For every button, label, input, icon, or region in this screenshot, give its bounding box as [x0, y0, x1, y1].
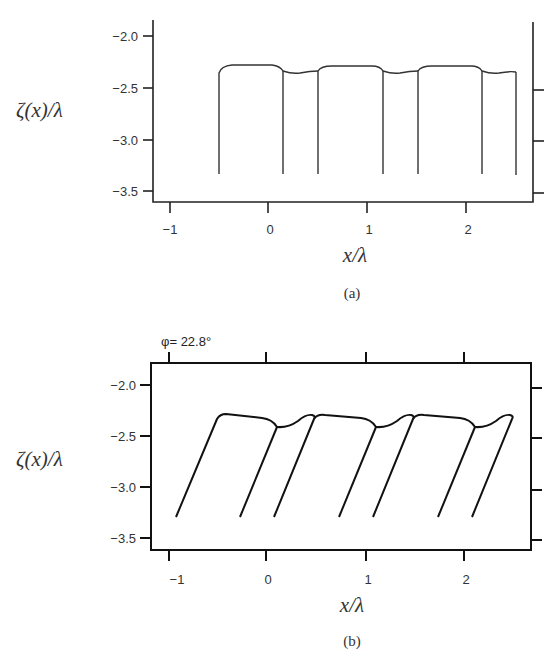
- panel-b-axes: [151, 363, 531, 550]
- panel-a-ytick-label: −3.5: [112, 184, 138, 199]
- panel-b-y-ticks: [140, 385, 151, 538]
- panel-b-x-axis-title: x/λ: [339, 593, 364, 617]
- panel-a-ytick-label: −2.0: [112, 29, 138, 44]
- panel-b-y-axis-title: ζ(x)/λ: [16, 447, 63, 471]
- panel-b-top-ticks: [169, 352, 464, 363]
- panel-b-ytick-label: −2.0: [110, 378, 136, 393]
- panel-a-right-ticks: [533, 90, 544, 193]
- panel-b-profile: [176, 414, 513, 517]
- panel-a-xtick-label: 2: [464, 222, 471, 237]
- panel-b-ytick-label: −3.5: [110, 531, 136, 546]
- panel-a-x-ticks: [170, 202, 466, 213]
- panel-b-xtick-label: 0: [264, 572, 271, 587]
- panel-a-xtick-label: 1: [365, 222, 372, 237]
- panel-a-x-axis-title: x/λ: [342, 243, 367, 267]
- panel-b-angle-annotation: φ= 22.8°: [161, 334, 211, 349]
- panel-a-profile: [219, 65, 516, 175]
- panel-a-caption: (a): [344, 285, 361, 302]
- panel-a: −2.0 −2.5 −3.0 −3.5 −1 0 1 2 ζ(x)/λ x/λ …: [16, 20, 544, 302]
- panel-b: φ= 22.8°: [16, 334, 542, 650]
- panel-b-xtick-label: −1: [170, 572, 185, 587]
- panel-a-xtick-label: −1: [163, 222, 178, 237]
- panel-b-xtick-label: 2: [462, 572, 469, 587]
- panel-a-y-axis-title: ζ(x)/λ: [16, 98, 63, 122]
- panel-a-xtick-label: 0: [266, 222, 273, 237]
- panel-a-axes: [153, 20, 533, 202]
- panel-b-right-ticks: [531, 388, 542, 540]
- panel-a-ytick-label: −3.0: [112, 133, 138, 148]
- panel-b-ytick-label: −3.0: [110, 480, 136, 495]
- panel-b-caption: (b): [343, 633, 361, 650]
- panel-a-ytick-label: −2.5: [112, 81, 138, 96]
- panel-a-y-ticks: [143, 36, 153, 191]
- panel-b-xtick-label: 1: [364, 572, 371, 587]
- panel-b-x-ticks: [169, 550, 464, 561]
- panel-b-ytick-label: −2.5: [110, 429, 136, 444]
- figure: −2.0 −2.5 −3.0 −3.5 −1 0 1 2 ζ(x)/λ x/λ …: [0, 0, 559, 663]
